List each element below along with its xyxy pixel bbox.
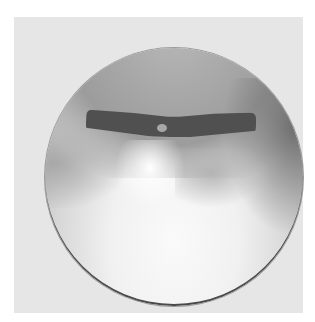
bright-reflection <box>115 140 185 210</box>
endoscopic-view <box>45 48 303 306</box>
left-shading <box>45 118 125 208</box>
tissue-fold <box>175 148 265 208</box>
band-center-dot <box>157 124 167 132</box>
image-frame <box>14 17 303 313</box>
